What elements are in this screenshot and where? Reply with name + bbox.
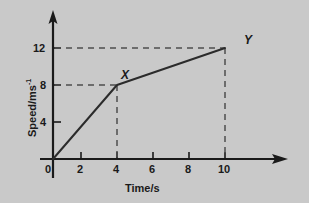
point-label-y: Y xyxy=(244,33,252,47)
speed-time-graph-figure: 0 2 4 6 8 10 4 8 12 Time/s Speed/ms-1 X … xyxy=(0,0,309,203)
x-tick-label-6: 6 xyxy=(149,163,155,175)
y-axis-title-base: Speed/ms xyxy=(26,85,38,137)
speed-time-line xyxy=(53,48,225,159)
x-tick-label-0: 0 xyxy=(45,163,51,175)
x-tick-label-2: 2 xyxy=(77,163,83,175)
guide-lines xyxy=(55,48,225,157)
x-tick-label-8: 8 xyxy=(185,163,191,175)
x-tick-label-4: 4 xyxy=(113,163,119,175)
point-label-x: X xyxy=(121,68,129,82)
y-tick-label-8: 8 xyxy=(40,79,46,91)
y-tick-label-12: 12 xyxy=(33,42,45,54)
y-axis-title: Speed/ms-1 xyxy=(25,79,38,137)
y-tick-label-4: 4 xyxy=(40,116,46,128)
y-axis-title-exponent: -1 xyxy=(25,79,32,85)
x-axis-title: Time/s xyxy=(125,182,160,194)
x-tick-label-10: 10 xyxy=(218,163,230,175)
